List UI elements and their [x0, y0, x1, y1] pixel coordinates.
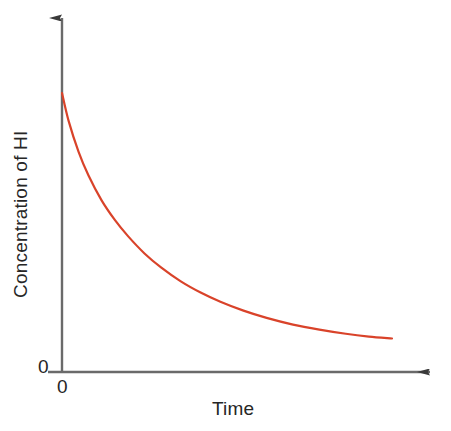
- y-axis-tick-zero: 0: [38, 357, 49, 376]
- chart-figure: Concentration of HI Time 0 0: [0, 0, 451, 431]
- x-axis-tick-zero: 0: [57, 377, 68, 396]
- plot-canvas: [0, 0, 451, 431]
- decay-curve: [62, 93, 392, 339]
- y-axis-label: Concentration of HI: [11, 131, 30, 299]
- x-axis-label: Time: [212, 399, 254, 418]
